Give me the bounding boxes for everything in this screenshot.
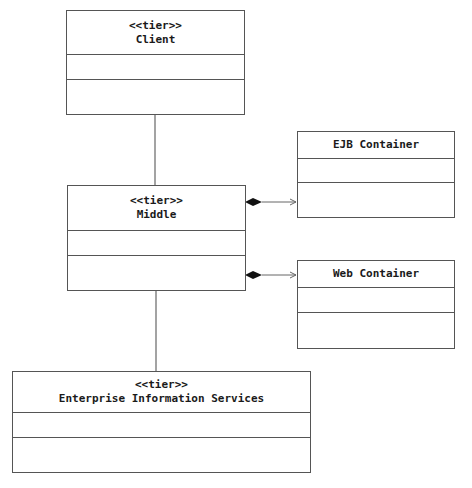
divider	[298, 158, 454, 159]
class-name: Middle	[68, 208, 245, 222]
class-client[interactable]: <<tier>> Client	[66, 10, 245, 115]
divider	[68, 230, 245, 231]
divider	[298, 287, 454, 288]
middle-web-composition	[245, 271, 296, 279]
divider	[298, 312, 454, 313]
stereotype: <<tier>>	[13, 378, 310, 392]
divider	[298, 182, 454, 183]
class-name: Client	[67, 33, 244, 47]
stereotype: <<tier>>	[68, 194, 245, 208]
middle-ejb-composition	[245, 198, 296, 206]
divider	[67, 54, 244, 55]
class-web-container[interactable]: Web Container	[297, 260, 455, 349]
class-ejb-container[interactable]: EJB Container	[297, 131, 455, 218]
class-name: Enterprise Information Services	[13, 392, 310, 406]
divider	[13, 437, 310, 438]
divider	[67, 79, 244, 80]
divider	[13, 412, 310, 413]
class-name: Web Container	[298, 267, 454, 281]
divider	[68, 255, 245, 256]
class-middle[interactable]: <<tier>> Middle	[67, 185, 246, 291]
stereotype: <<tier>>	[67, 19, 244, 33]
class-name: EJB Container	[298, 138, 454, 152]
class-eis[interactable]: <<tier>> Enterprise Information Services	[12, 371, 311, 473]
